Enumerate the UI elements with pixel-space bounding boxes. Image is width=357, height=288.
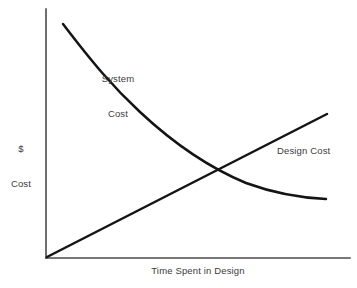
y-axis-label-line2: Cost bbox=[0, 178, 42, 190]
series-annotation-system-cost-line1: System bbox=[94, 73, 142, 85]
chart-canvas bbox=[0, 0, 357, 288]
series-annotation-system-cost-line2: Cost bbox=[94, 108, 142, 120]
series-annotation-design-cost: Design Cost bbox=[277, 145, 330, 157]
series-annotation-system-cost: System Cost bbox=[94, 50, 142, 142]
y-axis-label: $ Cost bbox=[0, 120, 42, 212]
series-line-design-cost bbox=[47, 114, 327, 257]
x-axis-label: Time Spent in Design bbox=[46, 265, 350, 277]
chart-figure: $ Cost Time Spent in Design System Cost … bbox=[0, 0, 357, 288]
y-axis-label-line1: $ bbox=[0, 143, 42, 155]
